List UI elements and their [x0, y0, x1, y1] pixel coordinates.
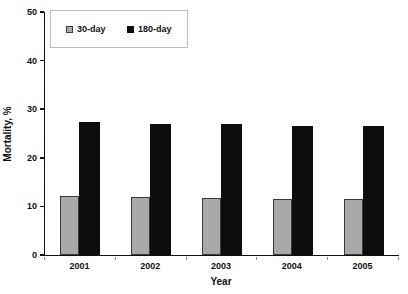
- y-tick-mark-10: [40, 206, 44, 208]
- y-tick-label-0: 0: [0, 250, 37, 260]
- x-tick-label-2001: 2001: [54, 261, 104, 271]
- x-tick-mark-5: [398, 257, 399, 260]
- bar-30-day-2001: [60, 196, 79, 255]
- x-axis-title: Year: [44, 276, 398, 287]
- bar-30-day-2005: [344, 199, 363, 255]
- bar-180-day-2004: [292, 126, 313, 255]
- y-tick-mark-20: [40, 157, 44, 159]
- x-tick-mark-3: [256, 257, 257, 260]
- y-tick-label-10: 10: [0, 201, 37, 211]
- x-tick-label-2005: 2005: [338, 261, 388, 271]
- bar-30-day-2004: [273, 199, 292, 255]
- y-tick-label-20: 20: [0, 153, 37, 163]
- x-tick-mark-1: [115, 257, 116, 260]
- x-tick-label-2003: 2003: [196, 261, 246, 271]
- y-tick-label-50: 50: [0, 7, 37, 17]
- bar-180-day-2005: [363, 126, 384, 255]
- x-tick-label-2004: 2004: [267, 261, 317, 271]
- x-tick-mark-2: [186, 257, 187, 260]
- bar-180-day-2002: [150, 124, 171, 255]
- x-tick-mark-0: [44, 257, 45, 260]
- plot-area: [44, 12, 399, 256]
- y-tick-label-30: 30: [0, 104, 37, 114]
- y-tick-mark-50: [40, 11, 44, 13]
- bar-180-day-2003: [221, 124, 242, 255]
- mortality-trend-chart: Mortality, % 30-day 180-day Year 0102030…: [0, 0, 408, 294]
- x-tick-label-2002: 2002: [125, 261, 175, 271]
- x-tick-mark-4: [327, 257, 328, 260]
- bar-30-day-2003: [202, 198, 221, 255]
- y-tick-label-40: 40: [0, 56, 37, 66]
- bar-180-day-2001: [79, 122, 100, 255]
- y-tick-mark-30: [40, 108, 44, 110]
- bar-30-day-2002: [131, 197, 150, 255]
- y-tick-mark-40: [40, 60, 44, 62]
